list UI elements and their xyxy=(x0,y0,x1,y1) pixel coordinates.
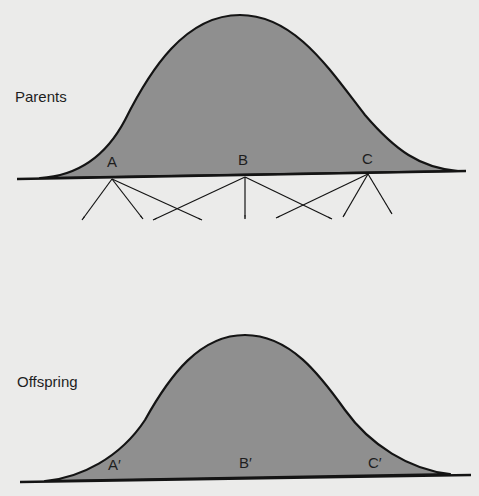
point-label-b-prime: B′ xyxy=(239,454,252,471)
point-label-a: A xyxy=(107,153,117,170)
point-label-b: B xyxy=(238,151,248,168)
point-label-c-prime: C′ xyxy=(368,454,382,471)
arrow-a-mid xyxy=(112,179,143,219)
offspring-spread-arrows xyxy=(82,174,392,220)
parents-bell-curve xyxy=(40,15,458,178)
point-label-c: C xyxy=(362,150,373,167)
regression-diagram: Parents A B C Offspring A′ B′ C′ xyxy=(0,0,479,496)
arrow-b-left xyxy=(153,177,245,220)
offspring-label: Offspring xyxy=(17,373,78,390)
arrow-c-left xyxy=(276,174,368,218)
parents-distribution: Parents A B C xyxy=(15,15,466,220)
point-label-a-prime: A′ xyxy=(108,456,121,473)
arrow-a-right xyxy=(112,179,202,220)
arrow-c-right xyxy=(368,174,392,214)
arrow-a-left xyxy=(82,179,112,220)
parents-label: Parents xyxy=(15,88,67,105)
offspring-distribution: Offspring A′ B′ C′ xyxy=(17,335,471,482)
